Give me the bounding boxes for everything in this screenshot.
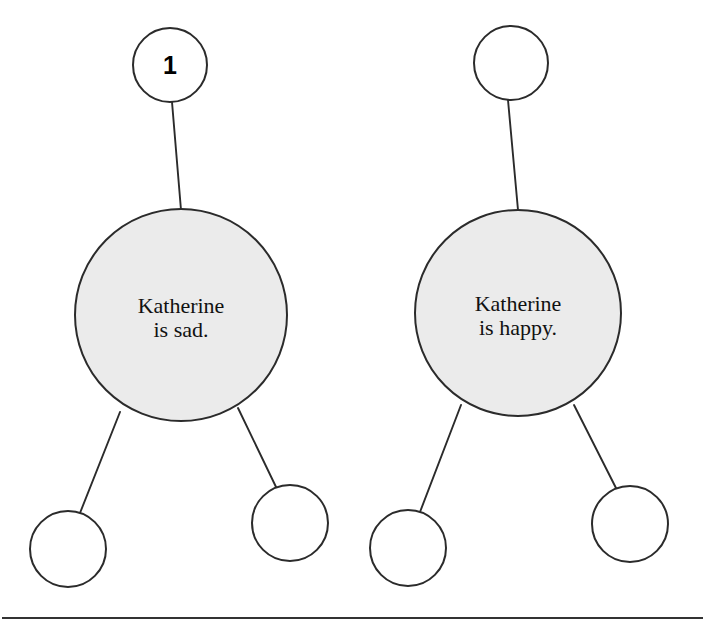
edge-right-badge-to-root bbox=[508, 100, 518, 210]
left-root-label-line2: is sad. bbox=[154, 317, 209, 342]
right-root-label-line1: Katherine bbox=[475, 291, 562, 316]
left-root-label-line1: Katherine bbox=[138, 293, 225, 318]
right-tree: Katherine is happy. bbox=[370, 26, 668, 586]
edge-left-badge-to-root bbox=[172, 102, 181, 210]
right-badge-node[interactable] bbox=[474, 26, 548, 100]
graph-svg: 1 Katherine is sad. Katherine is happy. bbox=[0, 0, 705, 631]
right-child-node-1[interactable] bbox=[370, 510, 446, 586]
edge-left-root-to-child-1 bbox=[80, 412, 120, 513]
right-root-label-line2: is happy. bbox=[479, 315, 557, 340]
diagram-canvas: 1 Katherine is sad. Katherine is happy. bbox=[0, 0, 705, 631]
left-tree: 1 Katherine is sad. bbox=[30, 28, 328, 587]
edge-right-root-to-child-2 bbox=[574, 405, 617, 490]
left-badge-label: 1 bbox=[163, 51, 177, 79]
edge-right-root-to-child-1 bbox=[420, 405, 461, 512]
edge-left-root-to-child-2 bbox=[238, 408, 277, 489]
left-child-node-2[interactable] bbox=[252, 485, 328, 561]
left-child-node-1[interactable] bbox=[30, 511, 106, 587]
right-child-node-2[interactable] bbox=[592, 486, 668, 562]
